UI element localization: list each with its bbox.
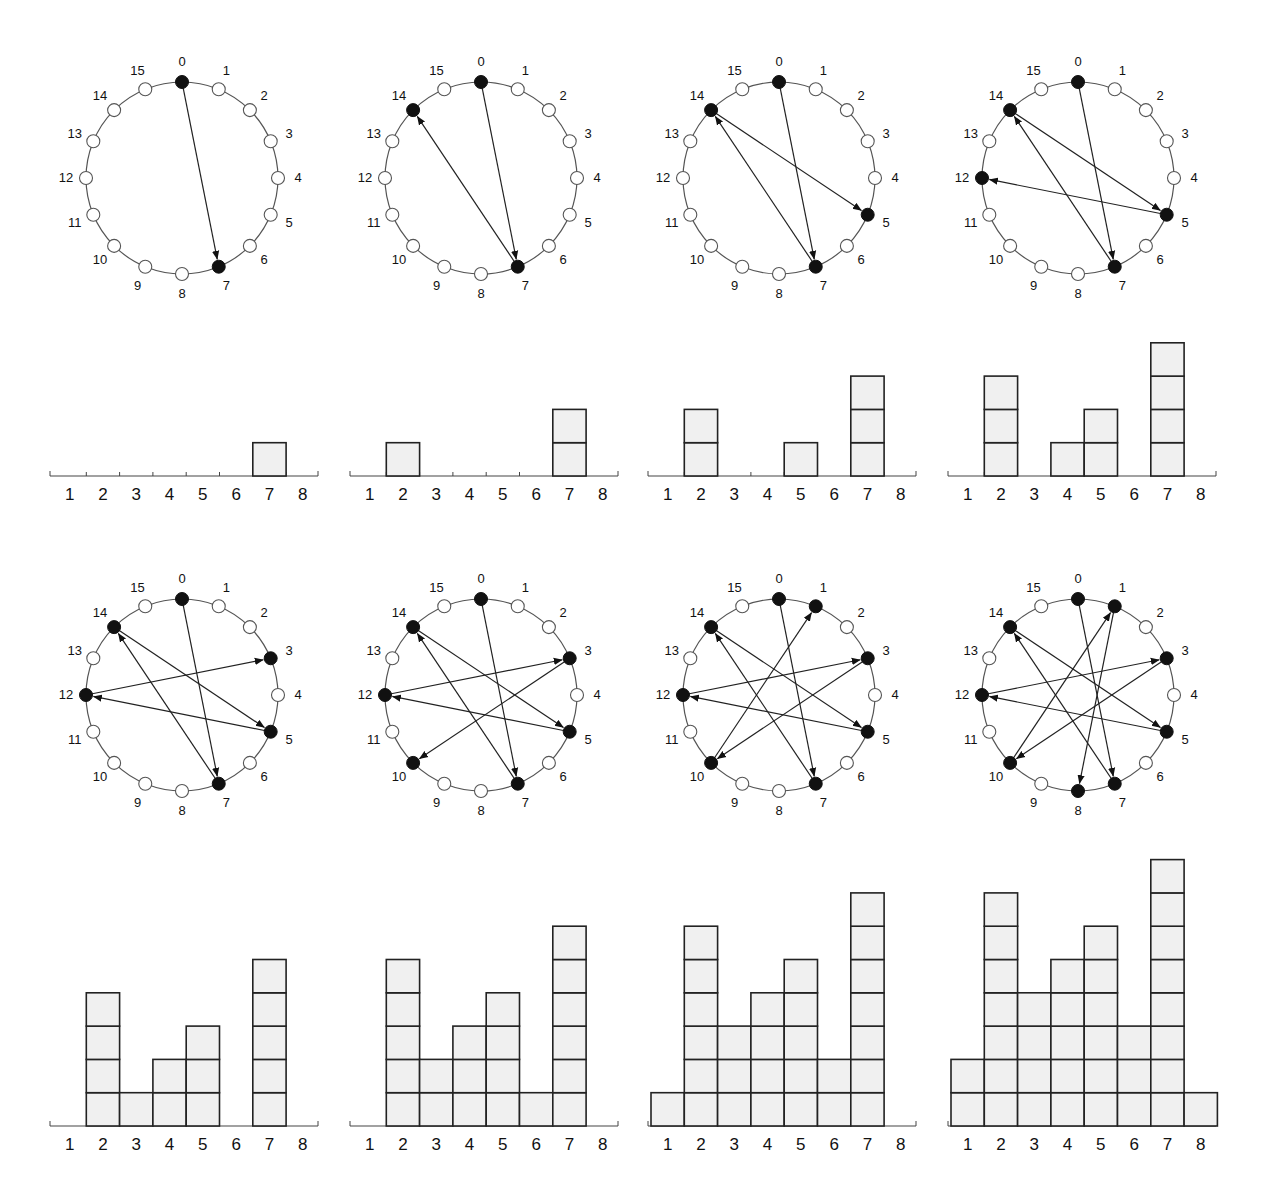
node-14 <box>705 104 718 117</box>
node-8 <box>773 268 786 281</box>
node-label: 9 <box>134 278 141 293</box>
node-label: 9 <box>731 795 738 810</box>
node-5 <box>861 725 874 738</box>
bin-label: 3 <box>432 485 441 504</box>
bin-label: 1 <box>663 485 672 504</box>
node-5 <box>1160 725 1173 738</box>
block-bin-7 <box>553 993 586 1026</box>
node-label: 5 <box>585 732 592 747</box>
node-label: 9 <box>433 795 440 810</box>
bin-label: 2 <box>98 1135 107 1154</box>
arrow-3-to-10 <box>1016 660 1164 759</box>
block-bin-7 <box>553 1026 586 1059</box>
histogram: 12345678 <box>50 443 318 504</box>
node-2 <box>542 621 555 634</box>
block-bin-5 <box>186 1026 219 1059</box>
arrow-12-to-3 <box>89 660 264 695</box>
node-label: 6 <box>857 252 864 267</box>
node-12 <box>976 689 989 702</box>
node-11 <box>684 725 697 738</box>
node-label: 0 <box>477 54 484 69</box>
block-bin-2 <box>684 443 717 476</box>
node-circle: 0123456789101112131415 <box>59 571 302 818</box>
block-bin-2 <box>684 993 717 1026</box>
block-bin-7 <box>1151 443 1184 476</box>
bin-label: 3 <box>432 1135 441 1154</box>
block-bin-7 <box>1151 1026 1184 1059</box>
bin-label: 6 <box>531 485 540 504</box>
block-bin-5 <box>1084 960 1117 993</box>
node-2 <box>1139 104 1152 117</box>
block-bin-4 <box>751 993 784 1026</box>
node-13 <box>684 652 697 665</box>
node-14 <box>407 621 420 634</box>
node-label: 14 <box>392 88 406 103</box>
node-label: 12 <box>358 687 372 702</box>
node-label: 12 <box>656 170 670 185</box>
jump-arrows <box>417 85 516 265</box>
node-13 <box>684 135 697 148</box>
node-label: 4 <box>294 170 301 185</box>
node-label: 15 <box>130 580 144 595</box>
node-label: 12 <box>358 170 372 185</box>
node-8 <box>475 785 488 798</box>
block-bin-5 <box>1084 1093 1117 1126</box>
node-label: 9 <box>731 278 738 293</box>
panel-4: 012345678910111213141512345678 <box>948 54 1216 504</box>
node-label: 0 <box>1074 571 1081 586</box>
node-label: 7 <box>1119 795 1126 810</box>
node-label: 8 <box>477 803 484 818</box>
node-9 <box>736 260 749 273</box>
node-label: 2 <box>559 88 566 103</box>
node-6 <box>243 239 256 252</box>
node-6 <box>243 756 256 769</box>
bin-label: 6 <box>531 1135 540 1154</box>
node-label: 13 <box>68 126 82 141</box>
block-bin-3 <box>120 1093 153 1126</box>
node-label: 4 <box>593 170 600 185</box>
block-bin-4 <box>751 1026 784 1059</box>
node-8 <box>176 268 189 281</box>
node-label: 6 <box>260 769 267 784</box>
node-label: 8 <box>775 286 782 301</box>
block-bin-5 <box>784 1059 817 1092</box>
jump-sequence-figure: 0123456789101112131415123456780123456789… <box>0 0 1264 1195</box>
block-bin-7 <box>253 443 286 476</box>
bin-label: 2 <box>98 485 107 504</box>
block-bin-7 <box>851 1026 884 1059</box>
node-13 <box>386 652 399 665</box>
block-bin-2 <box>386 960 419 993</box>
node-label: 14 <box>989 605 1003 620</box>
node-15 <box>139 600 152 613</box>
node-0 <box>475 593 488 606</box>
block-bin-4 <box>453 1093 486 1126</box>
node-10 <box>108 756 121 769</box>
bin-label: 5 <box>198 485 207 504</box>
node-label: 10 <box>989 252 1003 267</box>
node-1 <box>809 83 822 96</box>
bin-label: 3 <box>1030 485 1039 504</box>
block-bin-2 <box>386 443 419 476</box>
node-label: 1 <box>1119 63 1126 78</box>
arrow-0-to-7 <box>183 85 218 260</box>
node-8 <box>1072 268 1085 281</box>
block-bin-7 <box>851 1093 884 1126</box>
block-bin-5 <box>486 993 519 1026</box>
block-bin-5 <box>1084 1059 1117 1092</box>
block-bin-4 <box>751 1093 784 1126</box>
node-6 <box>840 756 853 769</box>
node-3 <box>861 135 874 148</box>
histogram: 12345678 <box>350 926 618 1154</box>
block-bin-5 <box>1084 993 1117 1026</box>
block-bin-4 <box>1051 1093 1084 1126</box>
block-bin-2 <box>984 960 1017 993</box>
node-14 <box>705 621 718 634</box>
node-label: 8 <box>1074 803 1081 818</box>
block-bin-2 <box>984 376 1017 409</box>
arrow-7-to-14 <box>1014 116 1113 264</box>
node-3 <box>861 652 874 665</box>
histogram: 12345678 <box>648 893 916 1154</box>
node-0 <box>1072 76 1085 89</box>
bin-label: 5 <box>1096 1135 1105 1154</box>
node-11 <box>983 725 996 738</box>
